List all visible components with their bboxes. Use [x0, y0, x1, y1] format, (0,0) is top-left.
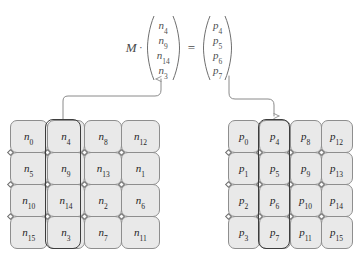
grid-cell[interactable]: n1	[121, 152, 159, 185]
grid-cell-label: n3	[61, 226, 70, 238]
grid-cell-label: p10	[299, 194, 312, 206]
grid-cell[interactable]: n0	[10, 120, 48, 153]
grid-cell-subscript: 1	[244, 170, 248, 179]
grid-cell[interactable]: n6	[121, 184, 159, 217]
grid-cell[interactable]: n7	[84, 216, 122, 249]
grid-cell-subscript: 10	[305, 202, 313, 211]
grid-cell-subscript: 12	[139, 138, 147, 147]
grid-cell-label: p7	[270, 226, 279, 238]
grid-cell[interactable]: n2	[84, 184, 122, 217]
grid-cell-subscript: 3	[67, 234, 71, 243]
grid-cell-subscript: 4	[67, 138, 71, 147]
grid-cell-subscript: 1	[141, 170, 145, 179]
grid-cell[interactable]: p2	[228, 184, 260, 217]
grid-cell[interactable]: n15	[10, 216, 48, 249]
grid-cell-label: n0	[24, 130, 33, 142]
grid-cell[interactable]: p0	[228, 120, 260, 153]
grid-cell-subscript: 9	[306, 170, 310, 179]
grid-cell-label: p8	[301, 130, 310, 142]
grid-cell-label: p9	[301, 162, 310, 174]
grid-cell[interactable]: p5	[259, 152, 291, 185]
dot-operator-symbol: ·	[139, 41, 143, 53]
grid-cell-subscript: 15	[336, 234, 344, 243]
grid-cell-subscript: 8	[306, 138, 310, 147]
grid-cell-subscript: 9	[67, 170, 71, 179]
input-vector-entries: n4 n9 n14 n3	[155, 18, 172, 78]
grid-cell-subscript: 13	[102, 170, 110, 179]
grid-cell-subscript: 11	[140, 234, 147, 243]
output-column-vector: p4 p5 p6 p7	[202, 15, 233, 81]
grid-cell-subscript: 0	[30, 138, 34, 147]
grid-cell-subscript: 3	[244, 234, 248, 243]
grid-cell[interactable]: n10	[10, 184, 48, 217]
grid-cell-label: p2	[239, 194, 248, 206]
grid-cell-subscript: 14	[65, 202, 73, 211]
grid-cell-subscript: 7	[104, 234, 108, 243]
grid-cell[interactable]: n5	[10, 152, 48, 185]
grid-cell-label: p6	[270, 194, 279, 206]
grid-cell-subscript: 4	[275, 138, 279, 147]
grid-cell-label: n14	[59, 194, 72, 206]
grid-cell-subscript: 2	[104, 202, 108, 211]
grid-cell-subscript: 0	[244, 138, 248, 147]
right-paren-close-icon	[224, 15, 233, 81]
output-vector-entries: p4 p5 p6 p7	[211, 18, 224, 78]
grid-cell-subscript: 8	[104, 138, 108, 147]
grid-cell-label: n8	[99, 130, 108, 142]
equals-symbol: =	[188, 40, 195, 56]
grid-cell-label: p5	[270, 162, 279, 174]
grid-cell-label: n9	[61, 162, 70, 174]
grid-cell-label: n4	[61, 130, 70, 142]
grid-cell[interactable]: p14	[321, 184, 353, 217]
grid-cell[interactable]: p9	[290, 152, 322, 185]
grid-cell-subscript: 11	[305, 234, 312, 243]
grid-cell-subscript: 5	[275, 170, 279, 179]
grid-cell[interactable]: p1	[228, 152, 260, 185]
grid-cell[interactable]: n12	[121, 120, 159, 153]
grid-cell[interactable]: p3	[228, 216, 260, 249]
grid-cell-label: n6	[136, 194, 145, 206]
grid-cell-label: n2	[99, 194, 108, 206]
grid-cell[interactable]: n14	[47, 184, 85, 217]
grid-cell-subscript: 10	[28, 202, 36, 211]
matrix-equation: M · n4 n9 n14 n3 =	[0, 8, 359, 88]
grid-cell-label: n10	[22, 194, 35, 206]
grid-cell[interactable]: n13	[84, 152, 122, 185]
grid-cell-label: p3	[239, 226, 248, 238]
grid-cell[interactable]: p7	[259, 216, 291, 249]
grid-cell[interactable]: p8	[290, 120, 322, 153]
grid-cell[interactable]: p11	[290, 216, 322, 249]
matrix-label: M	[126, 40, 137, 56]
grid-cell-label: n13	[97, 162, 110, 174]
grid-cell-label: p13	[330, 162, 343, 174]
grid-cell[interactable]: p13	[321, 152, 353, 185]
grid-cell-subscript: 15	[28, 234, 36, 243]
grid-cell[interactable]: p10	[290, 184, 322, 217]
grid-cell[interactable]: n3	[47, 216, 85, 249]
grid-cell[interactable]: p4	[259, 120, 291, 153]
grid-cell-label: p0	[239, 130, 248, 142]
left-paren-open-icon	[146, 15, 155, 81]
result-grid-p: p0p4p8p12p1p5p9p13p2p6p10p14p3p7p11p15	[228, 120, 352, 248]
grid-cell-subscript: 2	[244, 202, 248, 211]
right-paren-open-icon	[202, 15, 211, 81]
grid-cell[interactable]: n11	[121, 216, 159, 249]
grid-cell-subscript: 7	[275, 234, 279, 243]
grid-cell[interactable]: n9	[47, 152, 85, 185]
grid-cell-label: n5	[24, 162, 33, 174]
input-vector-entry-0: n4	[159, 18, 168, 33]
grid-cell-subscript: 5	[30, 170, 34, 179]
grid-cell[interactable]: p15	[321, 216, 353, 249]
left-paren-close-icon	[172, 15, 181, 81]
grid-cell[interactable]: p6	[259, 184, 291, 217]
grid-cell-subscript: 13	[336, 170, 344, 179]
grid-cell-label: n15	[22, 226, 35, 238]
grid-cell-label: n12	[134, 130, 147, 142]
grid-cell[interactable]: n8	[84, 120, 122, 153]
grid-cell[interactable]: p12	[321, 120, 353, 153]
grid-cell-label: p1	[239, 162, 248, 174]
grid-cell[interactable]: n4	[47, 120, 85, 153]
source-grid-n: n0n4n8n12n5n9n13n1n10n14n2n6n15n3n7n11	[10, 120, 159, 248]
grid-cell-label: p12	[330, 130, 343, 142]
input-column-vector: n4 n9 n14 n3	[146, 15, 181, 81]
